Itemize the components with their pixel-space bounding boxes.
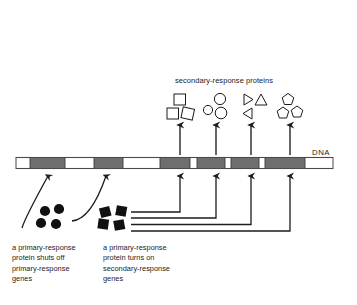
repressor-protein-4 xyxy=(51,219,61,229)
protein-triangle-2 xyxy=(255,94,267,105)
activation-arrow-gene-3 xyxy=(131,176,180,212)
gene-secondary-response-1 xyxy=(160,158,190,169)
activator-protein-cluster xyxy=(97,205,127,231)
activator-protein-4 xyxy=(113,219,125,231)
dna-label: DNA xyxy=(312,148,330,157)
caption-repressor: a primary-response protein shuts off pri… xyxy=(12,243,96,284)
repressor-protein-2 xyxy=(54,204,64,214)
gene-primary-response-2 xyxy=(94,158,123,169)
secondary-protein-group-squares xyxy=(167,94,195,120)
dna-strand xyxy=(16,158,333,169)
protein-pentagon-3 xyxy=(291,106,303,117)
secondary-protein-group-pentagons xyxy=(277,94,303,119)
activation-arrow-gene-6 xyxy=(131,176,290,231)
protein-triangle-1 xyxy=(244,94,253,105)
cell-signaling-gene-regulation-diagram: secondary-response proteins DNA a primar… xyxy=(0,0,357,305)
gene-secondary-response-3 xyxy=(231,158,259,169)
protein-pentagon-1 xyxy=(282,94,294,105)
repression-arrows xyxy=(22,176,106,228)
protein-pentagon-2 xyxy=(277,107,289,118)
repressor-protein-1 xyxy=(40,206,50,216)
activation-arrows xyxy=(131,176,290,231)
secondary-protein-group-triangles xyxy=(243,94,267,119)
repressor-protein-3 xyxy=(36,218,46,228)
gene-primary-response-1 xyxy=(30,158,65,169)
transcription-arrows xyxy=(180,125,290,155)
gene-secondary-response-4 xyxy=(265,158,305,169)
protein-circle-3 xyxy=(215,107,227,119)
secondary-response-proteins-label: secondary-response proteins xyxy=(175,76,273,85)
caption-activator: a primary-response protein turns on seco… xyxy=(103,243,195,284)
protein-square-1 xyxy=(174,94,186,105)
protein-square-2 xyxy=(167,108,179,119)
secondary-protein-group-circles xyxy=(203,93,226,118)
activator-protein-3 xyxy=(97,218,109,229)
protein-circle-1 xyxy=(214,93,225,104)
activation-arrow-gene-5 xyxy=(131,176,251,225)
activator-protein-1 xyxy=(99,206,112,218)
repressor-protein-cluster xyxy=(36,204,64,229)
protein-triangle-3 xyxy=(243,108,252,119)
protein-circle-2 xyxy=(203,105,212,114)
protein-square-3 xyxy=(181,107,195,120)
gene-secondary-response-2 xyxy=(197,158,225,169)
activator-protein-2 xyxy=(115,205,127,217)
